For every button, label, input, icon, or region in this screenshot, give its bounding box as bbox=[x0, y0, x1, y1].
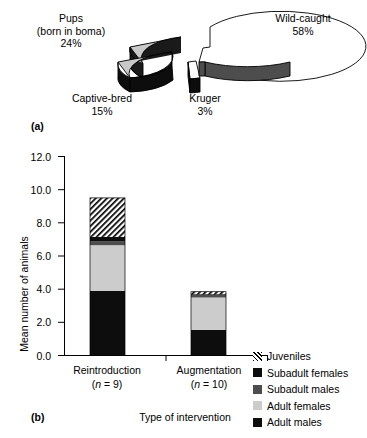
pie-label-pups-value: 24% bbox=[16, 37, 126, 50]
y-tick-label-4: 8.0 bbox=[17, 217, 51, 229]
pie-label-wild-caught-line1: Wild-caught bbox=[244, 12, 362, 25]
pie-label-kruger-line1: Kruger bbox=[170, 92, 240, 105]
legend-swatch-subadult-females-icon bbox=[253, 368, 262, 377]
pie-chart-panel: Pups (born in boma) 24% Wild-caught 58% … bbox=[0, 0, 367, 140]
bar-segment-subadult-males bbox=[90, 241, 125, 245]
legend-label-juveniles: Juveniles bbox=[267, 350, 311, 362]
bar-segment-adult-males bbox=[90, 291, 125, 356]
pie-label-wild-caught-value: 58% bbox=[244, 25, 362, 38]
bar-segment-adult-females bbox=[90, 245, 125, 291]
legend-label-adult-males: Adult males bbox=[267, 416, 322, 428]
y-tick-label-6: 12.0 bbox=[11, 151, 51, 163]
pie-label-captive-bred-value: 15% bbox=[52, 105, 152, 118]
legend-item-adult-females: Adult females bbox=[253, 398, 348, 415]
pie-label-kruger: Kruger 3% bbox=[170, 92, 240, 117]
chart-legend: Juveniles Subadult females Subadult male… bbox=[253, 348, 348, 431]
bar-segment-adult-females bbox=[191, 298, 226, 330]
legend-label-subadult-males: Subadult males bbox=[267, 383, 339, 395]
pie-label-pups-line1: Pups bbox=[16, 12, 126, 25]
x-tick-label-augmentation-name: Augmentation bbox=[154, 363, 264, 377]
pie-label-pups-line2: (born in boma) bbox=[16, 25, 126, 38]
y-tick-label-2: 4.0 bbox=[17, 283, 51, 295]
bar-segment-juveniles bbox=[191, 292, 226, 295]
legend-swatch-juveniles-icon bbox=[253, 352, 262, 361]
bar-segment-subadult-females bbox=[90, 237, 125, 241]
legend-item-subadult-females: Subadult females bbox=[253, 365, 348, 382]
legend-item-juveniles: Juveniles bbox=[253, 348, 348, 365]
pie-label-wild-caught: Wild-caught 58% bbox=[244, 12, 362, 37]
pie-label-captive-bred-line1: Captive-bred bbox=[52, 92, 152, 105]
legend-swatch-adult-females-icon bbox=[253, 401, 262, 410]
legend-label-subadult-females: Subadult females bbox=[267, 367, 348, 379]
panel-letter-a: (a) bbox=[31, 120, 44, 132]
legend-label-adult-females: Adult females bbox=[267, 400, 331, 412]
pie-label-captive-bred: Captive-bred 15% bbox=[52, 92, 152, 117]
y-tick-label-3: 6.0 bbox=[17, 250, 51, 262]
figure-container: Pups (born in boma) 24% Wild-caught 58% … bbox=[0, 0, 367, 438]
x-tick-label-augmentation-n: (n = 10) bbox=[154, 377, 264, 391]
bar-reintroduction bbox=[90, 198, 125, 356]
y-tick-label-5: 10.0 bbox=[11, 184, 51, 196]
bar-chart-panel: Mean number of animals 0.0 2.0 4.0 6.0 8… bbox=[0, 140, 367, 438]
bar-segment-subadult-males bbox=[191, 295, 226, 298]
x-tick-label-reintroduction-n: (n = 9) bbox=[52, 377, 162, 391]
x-axis-title: Type of intervention bbox=[105, 411, 265, 423]
panel-letter-b: (b) bbox=[31, 411, 44, 423]
bar-segment-adult-males bbox=[191, 330, 226, 356]
bar-augmentation bbox=[191, 292, 226, 356]
legend-swatch-subadult-males-icon bbox=[253, 385, 262, 394]
bar-segment-subadult-females bbox=[191, 294, 226, 295]
pie-label-pups: Pups (born in boma) 24% bbox=[16, 12, 126, 50]
bar-segment-juveniles bbox=[90, 198, 125, 237]
y-tick-label-0: 0.0 bbox=[17, 350, 51, 362]
x-tick-label-reintroduction-name: Reintroduction bbox=[52, 363, 162, 377]
x-tick-label-reintroduction: Reintroduction (n = 9) bbox=[52, 363, 162, 391]
y-tick-label-1: 2.0 bbox=[17, 316, 51, 328]
chart-axes bbox=[58, 156, 268, 361]
pie-label-kruger-value: 3% bbox=[170, 105, 240, 118]
pie-slice-kruger bbox=[188, 61, 200, 93]
x-tick-label-augmentation: Augmentation (n = 10) bbox=[154, 363, 264, 391]
legend-item-adult-males: Adult males bbox=[253, 414, 348, 431]
legend-item-subadult-males: Subadult males bbox=[253, 381, 348, 398]
